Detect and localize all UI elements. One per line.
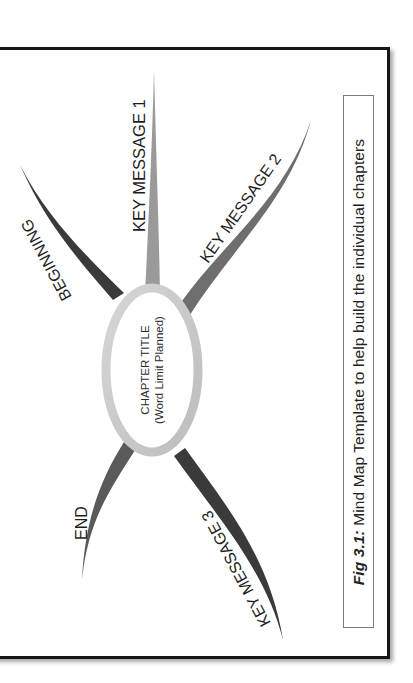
figure-caption: Fig 3.1: Mind Map Template to help build… <box>350 138 368 584</box>
center-title: CHAPTER TITLE <box>139 325 151 415</box>
caption-box: Fig 3.1: Mind Map Template to help build… <box>343 95 374 628</box>
caption-fig-label: Fig 3.1: <box>350 530 367 585</box>
center-ellipse <box>106 288 198 452</box>
branch-key-message-2 <box>177 120 311 318</box>
center-subtitle: (Word Limit Planned) <box>153 316 165 424</box>
label-key-message-2: KEY MESSAGE 2 <box>197 151 285 266</box>
label-beginning: BEGINNING <box>17 216 74 303</box>
label-end: END <box>73 506 90 540</box>
caption-text: Mind Map Template to help build the indi… <box>350 138 367 529</box>
label-key-message-1: KEY MESSAGE 1 <box>130 99 148 232</box>
